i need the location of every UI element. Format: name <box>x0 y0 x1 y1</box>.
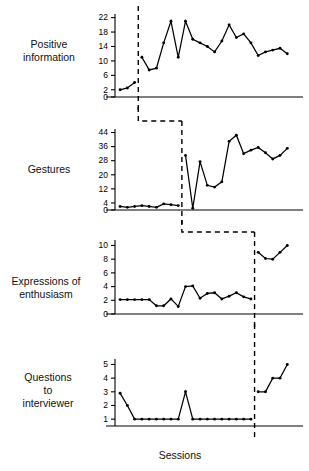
multiple-baseline-figure: Positive information 02610141822 Gesture… <box>0 0 309 471</box>
svg-text:18: 18 <box>99 27 109 37</box>
x-axis-label: Sessions <box>110 449 250 461</box>
svg-text:20: 20 <box>99 170 109 180</box>
svg-text:12: 12 <box>99 184 109 194</box>
panel-4-label-line2: to <box>44 384 53 396</box>
svg-text:2: 2 <box>103 295 108 305</box>
svg-text:1: 1 <box>103 414 108 424</box>
svg-text:2: 2 <box>103 85 108 95</box>
panel-gestures: Gestures 041220283644 <box>0 115 309 227</box>
svg-text:2: 2 <box>103 400 108 410</box>
svg-text:6: 6 <box>103 70 108 80</box>
svg-text:6: 6 <box>103 268 108 278</box>
svg-text:14: 14 <box>99 41 109 51</box>
svg-text:36: 36 <box>99 141 109 151</box>
panel-2-label-line1: Gestures <box>28 163 71 175</box>
panel-questions-to-interviewer: Questions to interviewer 12345 Sessions <box>0 341 309 471</box>
svg-text:10: 10 <box>99 56 109 66</box>
panel-2-axis-label: Gestures <box>6 163 92 176</box>
panel-positive-information: Positive information 02610141822 <box>0 0 309 115</box>
svg-text:44: 44 <box>99 127 109 137</box>
panel-3-axis-label: Expressions of enthusiasm <box>0 275 92 301</box>
svg-text:5: 5 <box>103 359 108 369</box>
svg-text:3: 3 <box>103 387 108 397</box>
svg-text:8: 8 <box>103 254 108 264</box>
panel-expressions-of-enthusiasm: Expressions of enthusiasm 0246810 <box>0 227 309 341</box>
svg-text:10: 10 <box>99 240 109 250</box>
svg-text:0: 0 <box>103 309 108 319</box>
svg-text:28: 28 <box>99 155 109 165</box>
panel-3-label-line1: Expressions of <box>12 275 81 287</box>
svg-text:4: 4 <box>103 373 108 383</box>
panel-4-axis-label: Questions to interviewer <box>4 371 92 410</box>
panel-1-label-line1: Positive <box>31 38 68 50</box>
panel-3-label-line2: enthusiasm <box>19 288 73 300</box>
panel-1-label-line2: information <box>23 51 75 63</box>
svg-text:4: 4 <box>103 198 108 208</box>
svg-text:4: 4 <box>103 281 108 291</box>
svg-text:22: 22 <box>99 12 109 22</box>
panel-1-axis-label: Positive information <box>6 38 92 64</box>
panel-4-label-line1: Questions <box>24 371 71 383</box>
panel-4-label-line3: interviewer <box>23 397 74 409</box>
